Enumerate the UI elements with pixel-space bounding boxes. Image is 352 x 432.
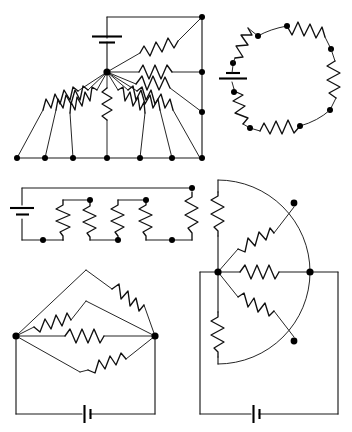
sector-resistor-r5 bbox=[218, 272, 294, 337]
ring-resistor-r5 bbox=[233, 28, 258, 63]
panel-bridge-diamond bbox=[12, 270, 158, 423]
sector-resistor-r2 bbox=[211, 312, 224, 357]
ladder-node-bottom-2 bbox=[115, 237, 121, 243]
panel-ring-network bbox=[219, 22, 340, 134]
fan-node-bottom-3 bbox=[70, 155, 76, 161]
fan-node-bottom-1 bbox=[14, 155, 20, 161]
fan-node-bottom-4 bbox=[104, 155, 110, 161]
ladder-resistor-r5 bbox=[185, 192, 198, 240]
ring-resistor-r1 bbox=[287, 22, 331, 49]
ring-node-7 bbox=[255, 33, 261, 39]
circuit-canvas bbox=[0, 0, 352, 432]
ring-battery-lead-lower bbox=[232, 82, 234, 89]
bridge-resistor-r1 bbox=[86, 270, 155, 336]
ring-resistor-r2 bbox=[327, 61, 340, 110]
ring-resistor-r3 bbox=[250, 120, 300, 134]
fan-node-right-3 bbox=[199, 109, 205, 115]
fan-resistor-r1 bbox=[107, 17, 202, 72]
fan-node-bottom-6 bbox=[169, 155, 175, 161]
fan-resistor-r7 bbox=[102, 72, 112, 158]
bridge-path4-left bbox=[16, 336, 80, 372]
sector-resistor-r3 bbox=[218, 265, 310, 279]
fan-node-right-2 bbox=[199, 69, 205, 75]
fan-resistor-r6 bbox=[70, 72, 107, 158]
ring-battery bbox=[219, 73, 247, 79]
fan-resistor-r2 bbox=[107, 65, 202, 79]
fan-resistor-r5 bbox=[45, 72, 107, 158]
ring-wire-3 bbox=[300, 110, 330, 126]
ladder-node-top-1 bbox=[87, 197, 93, 203]
fan-battery bbox=[92, 37, 122, 43]
ladder-node-top-right bbox=[189, 185, 195, 191]
bridge-resistor-r2 bbox=[16, 301, 86, 336]
ladder-resistor-r4 bbox=[139, 200, 152, 240]
panel-sector-network bbox=[200, 180, 338, 423]
ring-node-5 bbox=[231, 89, 237, 95]
ladder-node-bottom-1 bbox=[40, 237, 46, 243]
sector-resistor-r1 bbox=[211, 192, 224, 236]
fan-hub-node bbox=[103, 68, 110, 75]
bridge-battery bbox=[85, 405, 91, 423]
fan-node-bottom-5 bbox=[137, 155, 143, 161]
ladder-resistor-r1 bbox=[56, 200, 70, 240]
sector-node-arc-upper bbox=[291, 200, 298, 207]
fan-node-right-4 bbox=[199, 155, 205, 161]
panel-ladder-network bbox=[10, 185, 198, 243]
ladder-node-bottom-3 bbox=[169, 237, 175, 243]
fan-resistor-r8 bbox=[107, 72, 145, 158]
sector-node-arc-lower bbox=[291, 338, 298, 345]
ring-wire-1 bbox=[258, 26, 287, 36]
bridge-resistor-r3 bbox=[65, 329, 104, 343]
ladder-resistor-r3 bbox=[111, 200, 124, 240]
ring-node-8 bbox=[297, 123, 303, 129]
sector-battery bbox=[254, 405, 260, 423]
fan-resistor-r9 bbox=[107, 72, 172, 158]
fan-node-right-1 bbox=[199, 14, 205, 20]
ring-node-1 bbox=[284, 23, 290, 29]
bridge-resistor-r4 bbox=[80, 336, 155, 373]
bridge-node-right bbox=[151, 332, 158, 339]
ring-battery-lead-upper bbox=[232, 65, 233, 73]
sector-node-right bbox=[306, 268, 313, 275]
fan-node-bottom-2 bbox=[42, 155, 48, 161]
sector-hub-node bbox=[214, 268, 221, 275]
ladder-resistor-r2 bbox=[83, 202, 96, 240]
ladder-node-top-2 bbox=[143, 197, 149, 203]
panel-fan-network bbox=[14, 14, 205, 161]
fan-resistor-r10 bbox=[107, 72, 200, 158]
sector-resistor-r4 bbox=[218, 207, 294, 272]
ladder-battery bbox=[10, 208, 34, 215]
bridge-node-left bbox=[12, 332, 19, 339]
bridge-path1-left bbox=[16, 270, 86, 336]
schematic-sheet bbox=[0, 0, 352, 432]
